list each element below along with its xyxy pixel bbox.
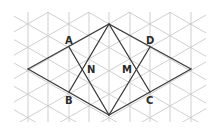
geometry-diagram: A B C D N M	[0, 0, 218, 134]
diagram-svg: A B C D N M	[0, 0, 218, 134]
label-c: C	[146, 95, 153, 106]
label-d: D	[146, 35, 154, 46]
label-a: A	[65, 35, 73, 46]
label-n: N	[87, 64, 95, 75]
grid-line-diagonal	[0, 125, 218, 134]
grid-line-diagonal	[0, 125, 218, 134]
label-m: M	[122, 64, 132, 75]
label-b: B	[65, 95, 73, 106]
